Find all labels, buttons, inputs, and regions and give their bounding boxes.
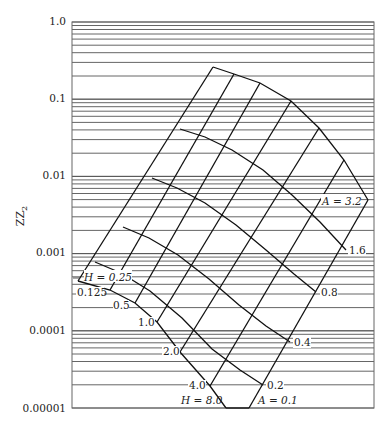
y-tick-0.0001: 0.0001 (29, 324, 66, 336)
label-a-0.4: 0.4 (294, 336, 311, 348)
label-a-3.2: A = 3.2 (321, 195, 362, 207)
label-h-4.0: 4.0 (189, 379, 206, 391)
label-a-0.1: A = 0.1 (257, 394, 298, 406)
y-tick-0.001: 0.001 (36, 246, 66, 258)
label-a-0.2: 0.2 (267, 379, 284, 391)
label-h-1.0: 1.0 (138, 316, 155, 328)
label-h-8.0: H = 8.0 (180, 394, 223, 406)
h-line-3 (157, 101, 291, 322)
label-h-0.5: 0.5 (113, 299, 130, 311)
label-h-0.125: 0.125 (77, 286, 107, 298)
y-tick-0.01: 0.01 (43, 169, 66, 181)
label-h-0.25: H = 0.25 (83, 271, 132, 283)
svg-text:ZZ2: ZZ2 (14, 206, 29, 226)
nomograph-grid (78, 67, 368, 408)
nomograph-chart: 1.0 0.1 0.01 0.001 0.0001 0.00001 ZZ2 H … (0, 0, 390, 425)
label-h-2.0: 2.0 (163, 345, 180, 357)
y-tick-0.1: 0.1 (49, 92, 66, 104)
y-axis-label: ZZ2 (14, 206, 29, 226)
label-a-1.6: 1.6 (349, 244, 366, 256)
y-tick-0.00001: 0.00001 (23, 402, 66, 414)
label-a-0.8: 0.8 (321, 286, 338, 298)
y-tick-1: 1.0 (49, 15, 66, 27)
h-line-6 (249, 200, 368, 408)
